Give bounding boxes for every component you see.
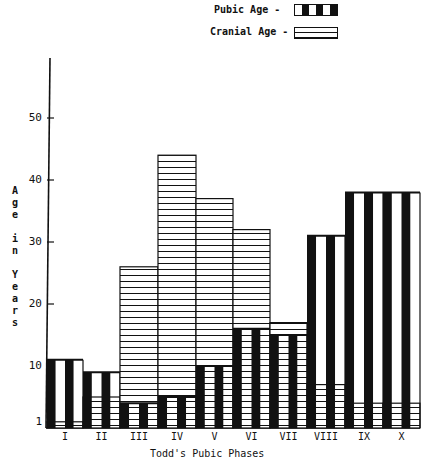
y-tick-label: 30 [12,235,42,248]
bar-chart [0,0,432,468]
x-tick-label: III [119,431,159,442]
x-tick-label: X [382,431,422,442]
x-tick-label: VI [232,431,272,442]
x-tick-label: IX [344,431,384,442]
x-tick-label: II [82,431,122,442]
x-tick-label: IV [157,431,197,442]
y-tick-label: 40 [12,173,42,186]
y-tick-label: 10 [12,359,42,372]
x-tick-label: VII [269,431,309,442]
x-tick-label: V [195,431,235,442]
x-tick-label: VIII [306,431,346,442]
y-tick-label: 20 [12,297,42,310]
y-tick-label: 50 [12,111,42,124]
y-tick-label: 1 [12,415,42,428]
x-tick-label: I [45,431,85,442]
